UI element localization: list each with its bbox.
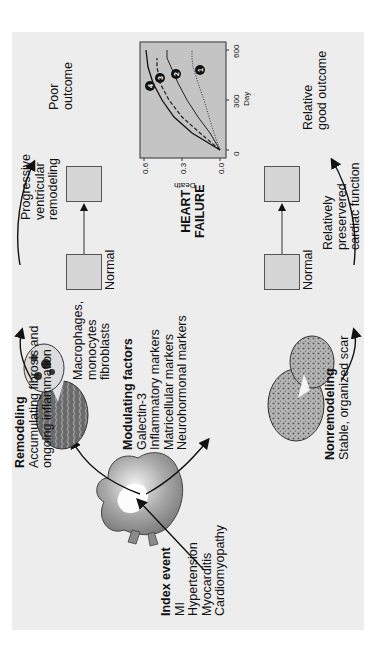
progressive-line: Progressive bbox=[20, 154, 34, 220]
normal-ventricle-image-bottom bbox=[264, 254, 300, 290]
good-outcome-line: good outcome bbox=[316, 51, 330, 130]
modulating-factors-block: Modulating factors Galectin-3 Inflammato… bbox=[122, 315, 190, 450]
progressive-line: remodeling bbox=[47, 154, 61, 220]
poor-outcome-label: Poor outcome bbox=[48, 62, 75, 110]
modulating-item: Matricellular markers bbox=[163, 315, 177, 450]
chart-xlabel: Day bbox=[240, 92, 254, 106]
cells-block: Macrophages, monocytes fibroblasts bbox=[72, 301, 113, 380]
normal-label-top: Normal bbox=[104, 250, 118, 290]
normal-label-bottom: Normal bbox=[302, 250, 316, 290]
modulating-item: Inflammatory markers bbox=[149, 315, 163, 450]
modulating-item: Galectin-3 bbox=[136, 315, 150, 450]
modulating-item: Neurohormonal markers bbox=[176, 315, 190, 450]
chart-xtick-600: 600 bbox=[230, 45, 244, 58]
preserved-line: cardiac function bbox=[349, 162, 363, 250]
remodeling-block: Remodeling Accumulating fibrosis and ong… bbox=[14, 326, 55, 468]
cells-line: Macrophages, bbox=[72, 301, 86, 380]
normal-ventricle-image-top bbox=[66, 254, 102, 290]
chart-ytick-0: 0.0 bbox=[215, 163, 229, 174]
nonremodeling-block: Nonremodeling Stable, organized scar bbox=[324, 336, 351, 460]
preserved-function-label: Relatively preservered cardiac function bbox=[322, 162, 363, 250]
preserved-line: Relatively bbox=[322, 162, 336, 250]
index-event-item: Hypertension bbox=[187, 525, 201, 616]
chart-xtick-0: 0 bbox=[230, 152, 244, 156]
heart-failure-line: FAILURE bbox=[194, 185, 208, 238]
svg-text:4: 4 bbox=[147, 84, 154, 88]
index-event-item: Cardiomyopathy bbox=[214, 525, 228, 616]
preserved-ventricle-image bbox=[264, 166, 300, 202]
svg-text:1: 1 bbox=[197, 68, 204, 72]
preserved-line: preservered bbox=[336, 162, 350, 250]
progressive-remodeling-label: Progressive ventricular remodeling bbox=[20, 154, 61, 220]
heart-failure-line: HEART bbox=[180, 185, 194, 238]
diagram-stage: 1 2 3 4 0 300 600 Day 0.0 0.3 0.6 Death … bbox=[12, 32, 364, 630]
svg-text:3: 3 bbox=[157, 76, 164, 80]
cells-line: monocytes bbox=[86, 301, 100, 380]
index-event-block: Index event MI Hypertension Myocarditis … bbox=[160, 525, 228, 616]
remodeling-line: Accumulating fibrosis and bbox=[28, 326, 42, 468]
nonremodeling-line: Stable, organized scar bbox=[338, 336, 352, 460]
chart-ytick-0-3: 0.3 bbox=[177, 163, 191, 174]
nonremodeling-title: Nonremodeling bbox=[324, 336, 338, 460]
progressive-line: ventricular bbox=[34, 154, 48, 220]
poor-outcome-line: outcome bbox=[62, 62, 76, 110]
good-outcome-line: Relative bbox=[302, 51, 316, 130]
index-event-item: MI bbox=[174, 525, 188, 616]
good-outcome-label: Relative good outcome bbox=[302, 51, 329, 130]
svg-text:2: 2 bbox=[173, 72, 180, 76]
index-event-item: Myocarditis bbox=[201, 525, 215, 616]
heart-failure-label: HEART FAILURE bbox=[180, 185, 207, 238]
remodeling-title: Remodeling bbox=[14, 326, 28, 468]
index-event-title: Index event bbox=[160, 525, 174, 616]
remodeling-line: ongoing inflammation bbox=[41, 326, 55, 468]
survival-chart: 1 2 3 4 bbox=[140, 42, 229, 161]
cells-line: fibroblasts bbox=[99, 301, 113, 380]
poor-outcome-line: Poor bbox=[48, 62, 62, 110]
modulating-title: Modulating factors bbox=[122, 315, 136, 450]
chart-ytick-0-6: 0.6 bbox=[139, 163, 153, 174]
remodeled-ventricle-image bbox=[66, 166, 102, 202]
figure-panel: 1 2 3 4 0 300 600 Day 0.0 0.3 0.6 Death … bbox=[12, 32, 364, 630]
